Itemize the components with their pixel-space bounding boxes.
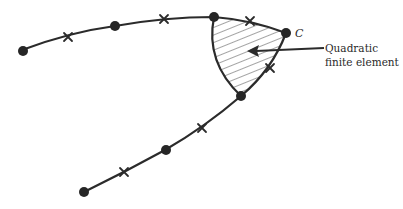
node-icon — [161, 145, 171, 155]
node-icon — [18, 46, 28, 56]
finite-element-diagram: C Quadratic finite element — [0, 0, 403, 209]
node-c-icon — [281, 28, 291, 38]
annotation-line-1: Quadratic — [325, 42, 378, 54]
node-icon — [236, 91, 246, 101]
cross-icon — [120, 168, 128, 176]
node-icon — [209, 12, 219, 22]
node-icon — [79, 187, 89, 197]
node-icon — [110, 21, 120, 31]
annotation-line-2: finite element — [325, 56, 400, 68]
corner-label-c: C — [295, 27, 304, 40]
